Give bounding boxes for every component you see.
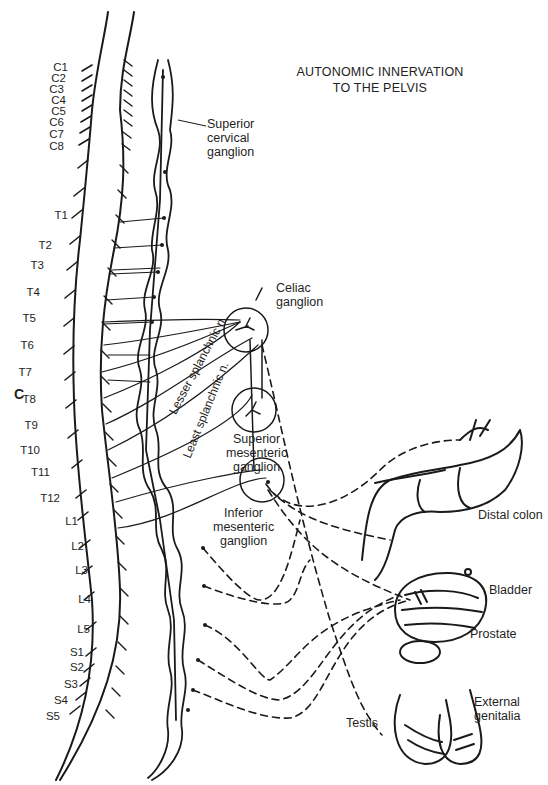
rami-communicantes <box>104 218 164 382</box>
segment-label: T10 <box>12 443 40 457</box>
distal-colon-drawing <box>362 420 522 580</box>
segment-label: T4 <box>12 285 40 299</box>
label-line: ganglion <box>213 534 274 548</box>
celiac-ganglion-label: Celiac ganglion <box>276 281 323 309</box>
segment-label: S2 <box>56 660 84 674</box>
label-line: ganglion <box>276 295 323 309</box>
spinal-roots-left <box>64 65 96 714</box>
segment-label: S1 <box>56 645 84 659</box>
segment-label: L2 <box>56 539 84 553</box>
segment-label: T1 <box>40 208 68 222</box>
diagram-title: AUTONOMIC INNERVATION TO THE PELVIS <box>285 64 475 96</box>
segment-label: S4 <box>40 693 68 707</box>
segment-label: C8 <box>36 139 64 153</box>
segment-label: L1 <box>50 514 78 528</box>
label-line: mesenteric <box>213 520 274 534</box>
superior-mesenteric-ganglion-label: Superior mesenteric ganglion <box>226 432 287 474</box>
segment-label: T2 <box>24 238 52 252</box>
external-genitalia-label: External genitalia <box>474 695 521 723</box>
segment-label: T5 <box>8 311 36 325</box>
label-line: External <box>474 695 521 709</box>
segment-label: T9 <box>10 418 38 432</box>
prostate-label: Prostate <box>470 627 517 641</box>
segment-label: T3 <box>16 258 44 272</box>
label-line: Inferior <box>213 506 274 520</box>
segment-label: T12 <box>32 491 60 505</box>
distal-colon-label: Distal colon <box>478 508 543 522</box>
prostate-drawing <box>400 641 440 663</box>
segment-label: S5 <box>32 709 60 723</box>
segment-label: L5 <box>62 622 90 636</box>
title-line-1: AUTONOMIC INNERVATION <box>285 64 475 80</box>
label-line: Celiac <box>276 281 323 295</box>
label-line: mesenteric <box>226 446 287 460</box>
label-line: cervical <box>207 131 254 145</box>
label-line: Superior <box>226 432 287 446</box>
title-line-2: TO THE PELVIS <box>285 80 475 96</box>
label-line: ganglion <box>207 145 254 159</box>
label-line: ganglion <box>226 460 287 474</box>
testis-label: Testis <box>346 716 378 730</box>
segment-label: T6 <box>6 338 34 352</box>
inferior-mesenteric-ganglion-label: Inferior mesenteric ganglion <box>213 506 274 548</box>
bladder-drawing <box>395 569 486 663</box>
bladder-label: Bladder <box>489 583 532 597</box>
superior-cervical-ganglion-label: Superior cervical ganglion <box>207 117 254 159</box>
label-line: genitalia <box>474 709 521 723</box>
splanchnic-nerves <box>102 319 266 528</box>
segment-label: T7 <box>4 365 32 379</box>
label-line: Superior <box>207 117 254 131</box>
segment-label: T11 <box>22 465 50 479</box>
segment-label: T8 <box>8 392 36 406</box>
genitalia-drawing <box>395 690 482 764</box>
segment-label: L3 <box>60 563 88 577</box>
segment-label: S3 <box>50 677 78 691</box>
segment-label: L4 <box>63 592 91 606</box>
